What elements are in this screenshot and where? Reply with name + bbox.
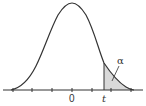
density-curve <box>11 3 134 90</box>
zero-label: 0 <box>69 93 75 104</box>
diagram-canvas: α 0 t <box>0 0 146 106</box>
alpha-label: α <box>117 55 124 66</box>
t-distribution-diagram: α 0 t <box>0 0 146 106</box>
t-label: t <box>102 93 107 104</box>
